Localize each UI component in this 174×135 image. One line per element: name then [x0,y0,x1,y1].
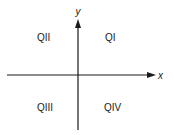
x-axis-label: x [157,70,164,81]
x-axis: x [7,70,164,81]
coordinate-plane-diagram: x y QII QI QIII QIV [0,0,174,135]
quadrant-1-label: QI [105,32,116,43]
y-axis: y [75,6,82,130]
quadrant-3-label: QIII [37,102,53,113]
y-axis-label: y [75,6,82,17]
y-axis-arrow-icon [75,19,81,28]
quadrant-2-label: QII [37,32,50,43]
x-axis-arrow-icon [147,72,156,78]
quadrant-4-label: QIV [104,102,122,113]
